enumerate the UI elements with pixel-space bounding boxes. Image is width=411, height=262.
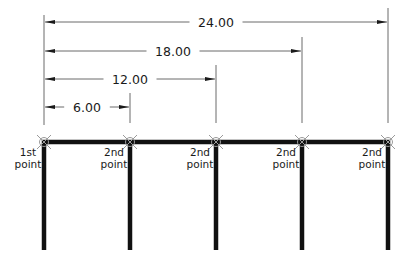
point-label-ordinal: 2nd <box>362 146 382 158</box>
dimension-label: 12.00 <box>112 72 148 87</box>
point-label-ordinal: 2nd <box>190 146 210 158</box>
dimension-label: 18.00 <box>155 44 191 59</box>
fence-structure <box>42 140 390 250</box>
point-label-word: point <box>187 158 214 170</box>
snap-point-marker-icon <box>209 135 223 149</box>
point-label-ordinal: 2nd <box>104 146 124 158</box>
point-label-word: point <box>273 158 300 170</box>
point-label-word: point <box>359 158 386 170</box>
snap-point-marker-icon <box>295 135 309 149</box>
point-label-ordinal: 2nd <box>276 146 296 158</box>
point-label-word: point <box>101 158 128 170</box>
diagram-canvas: 24.0018.0012.006.00 1stpoint2ndpoint2ndp… <box>0 0 411 262</box>
point-label-ordinal: 1st <box>20 146 36 158</box>
dimension-label: 6.00 <box>73 100 101 115</box>
fence-dimension-diagram: 24.0018.0012.006.00 1stpoint2ndpoint2ndp… <box>0 0 411 262</box>
point-labels: 1stpoint2ndpoint2ndpoint2ndpoint2ndpoint <box>15 146 386 170</box>
snap-point-marker-icon <box>123 135 137 149</box>
point-label-word: point <box>15 158 42 170</box>
snap-point-marker-icon <box>37 135 51 149</box>
snap-point-marker-icon <box>381 135 395 149</box>
dimension-label: 24.00 <box>198 15 234 30</box>
